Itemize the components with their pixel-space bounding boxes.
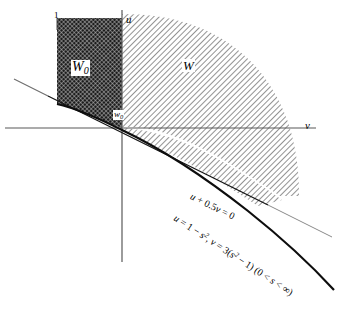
region-label-W-main: W bbox=[183, 58, 194, 73]
tick-label-one: 1 bbox=[54, 11, 59, 20]
line-u-plus-half-v-dash-left bbox=[14, 79, 48, 96]
region-label-W0-main: W bbox=[72, 59, 84, 74]
figure-vector-layer bbox=[0, 0, 339, 318]
line-u-plus-half-v-tail-right bbox=[268, 205, 332, 237]
point-label-w0-subscript: 0 bbox=[120, 113, 123, 120]
figure-canvas: u v 1 W0 W w0 u + 0.5v = 0 u = 1 − s2, v… bbox=[0, 0, 339, 318]
point-label-w0: w0 bbox=[113, 110, 124, 120]
region-label-W: W bbox=[182, 59, 195, 72]
region-label-W0: W0 bbox=[71, 60, 90, 76]
u-axis-label: u bbox=[126, 14, 132, 25]
v-axis-label: v bbox=[305, 120, 310, 131]
region-label-W0-subscript: 0 bbox=[84, 65, 89, 76]
